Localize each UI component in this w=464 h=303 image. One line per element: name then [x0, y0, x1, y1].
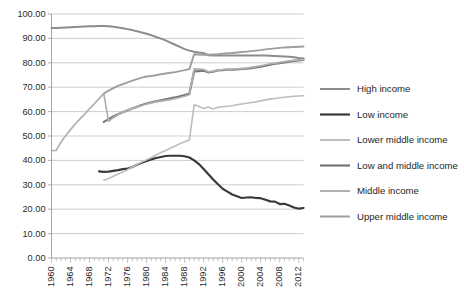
y-tick-label: 60.00 [23, 107, 46, 117]
data-series-lines [52, 26, 304, 209]
x-tick-label: 1960 [46, 267, 56, 287]
x-axis-tick-labels: 1960196419681972197619801984198819921996… [46, 267, 303, 287]
x-tick-label: 1996 [217, 267, 227, 287]
series-line-low-income [99, 156, 303, 209]
y-tick-label: 0.00 [28, 253, 46, 263]
x-tick-label: 1968 [84, 267, 94, 287]
y-tick-label: 90.00 [23, 33, 46, 43]
legend-label-lower-middle-income: Lower middle income [357, 134, 448, 145]
x-tick-label: 2004 [255, 267, 265, 287]
y-tick-label: 70.00 [23, 82, 46, 92]
legend-label-middle-income: Middle income [357, 185, 419, 196]
x-tick-label: 1972 [103, 267, 113, 287]
y-tick-label: 80.00 [23, 58, 46, 68]
x-tick-label: 1976 [122, 267, 132, 287]
x-tick-label: 2008 [274, 267, 284, 287]
y-tick-label: 100.00 [17, 9, 45, 19]
y-tick-label: 30.00 [23, 180, 46, 190]
legend-label-high-income: High income [357, 83, 410, 94]
series-line-high-income [52, 26, 304, 58]
x-tick-label: 1988 [179, 267, 189, 287]
x-tick-label: 1964 [65, 267, 75, 287]
y-axis-tick-labels: 0.0010.0020.0030.0040.0050.0060.0070.008… [17, 9, 45, 263]
y-tick-label: 20.00 [23, 204, 46, 214]
legend-label-low-income: Low income [357, 109, 408, 120]
legend-label-low-and-middle-income: Low and middle income [357, 160, 458, 171]
series-line-middle-income [52, 60, 304, 151]
legend-label-upper-middle-income: Upper middle income [357, 211, 448, 222]
y-tick-label: 40.00 [23, 155, 46, 165]
x-axis-minor-ticks [52, 258, 304, 263]
x-tick-label: 2000 [236, 267, 246, 287]
x-tick-label: 1980 [141, 267, 151, 287]
x-tick-label: 2012 [293, 267, 303, 287]
chart-svg: 0.0010.0020.0030.0040.0050.0060.0070.008… [0, 0, 464, 303]
x-tick-label: 1992 [198, 267, 208, 287]
y-tick-label: 50.00 [23, 131, 46, 141]
chart-legend: High incomeLow incomeLower middle income… [320, 83, 458, 222]
chart-figure: 0.0010.0020.0030.0040.0050.0060.0070.008… [0, 0, 464, 303]
x-tick-label: 1984 [160, 267, 170, 287]
y-tick-label: 10.00 [23, 229, 46, 239]
